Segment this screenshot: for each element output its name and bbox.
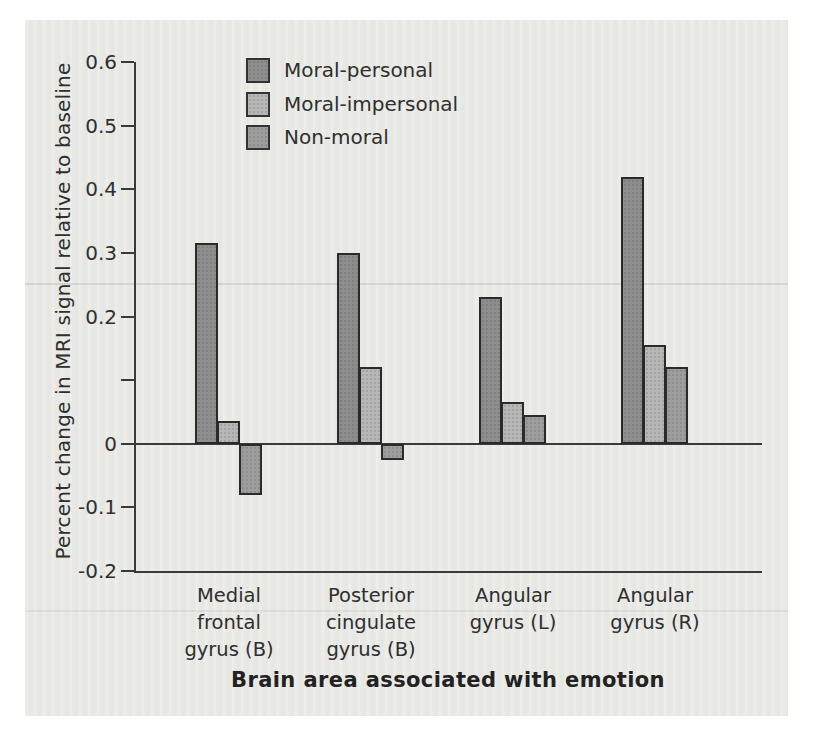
scan-artifact-line xyxy=(25,283,788,285)
x-axis-title: Brain area associated with emotion xyxy=(148,668,748,692)
figure-page: Percent change in MRI signal relative to… xyxy=(0,0,818,732)
y-axis-title: Percent change in MRI signal relative to… xyxy=(51,56,77,566)
scan-artifact-line xyxy=(25,610,788,612)
